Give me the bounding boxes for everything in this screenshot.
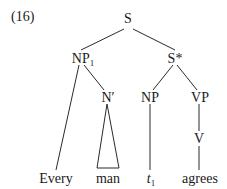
node-np1-label: NP [72,51,90,66]
node-np: NP [141,91,159,105]
node-np1-subscript: 1 [90,58,95,68]
edge-sstar-np [153,65,173,90]
node-s-label: S [124,11,132,26]
node-np-label: NP [141,90,159,105]
node-v-label: V [194,131,204,146]
node-np1: NP1 [72,52,94,70]
leaf-agrees: agrees [182,172,218,186]
edge-sstar-vp [177,65,197,90]
edge-s-sstar [133,29,175,50]
node-v: V [194,132,204,146]
leaf-agrees-text: agrees [182,171,218,186]
node-vp-label: VP [191,90,209,105]
node-s-star: S* [168,52,183,66]
node-s: S [124,12,132,26]
node-s-star-label: S* [168,51,183,66]
node-n-bar: N′ [101,91,114,105]
edge-np1-every [56,65,79,170]
triangle-nbar-man [97,104,119,168]
leaf-trace-subscript: 1 [151,178,156,188]
edge-s-np1 [81,29,124,50]
leaf-man: man [96,172,120,186]
node-n-bar-label: N′ [101,90,114,105]
example-number: (16) [11,10,34,24]
node-vp: VP [191,91,209,105]
leaf-every-text: Every [39,171,72,186]
leaf-man-text: man [96,171,120,186]
leaf-trace: t1 [147,172,155,189]
leaf-every: Every [39,172,72,186]
